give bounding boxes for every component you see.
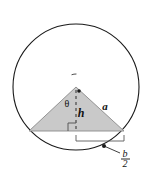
figure-container: circle. θ h a b 2: [0, 0, 150, 169]
side-length-label: a: [102, 100, 108, 112]
theta-angle-label: θ: [65, 98, 70, 109]
half-base-denominator-label: 2: [123, 158, 128, 169]
geometry-diagram: θ h a b 2: [0, 0, 150, 169]
diagram-background: [0, 0, 150, 169]
height-label: h: [78, 106, 85, 120]
leader-dot-marker: [102, 144, 106, 148]
apex-dot-marker: [77, 89, 81, 93]
